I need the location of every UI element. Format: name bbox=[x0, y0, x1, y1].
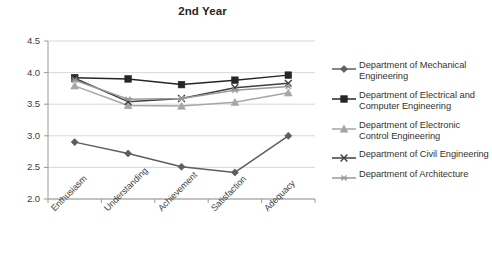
data-point-asterisk bbox=[340, 176, 347, 181]
data-point-triangle bbox=[71, 82, 79, 89]
data-point-asterisk bbox=[178, 96, 185, 101]
legend-item[interactable]: Department of Electronic Control Enginee… bbox=[332, 120, 492, 143]
legend-marker-square-icon bbox=[332, 91, 356, 103]
chart-legend: Department of Mechanical EngineeringDepa… bbox=[332, 60, 492, 189]
data-point-triangle bbox=[284, 89, 292, 96]
plot-svg bbox=[0, 0, 340, 259]
diamond-marker bbox=[340, 65, 347, 72]
square-marker bbox=[232, 77, 239, 84]
diamond-marker bbox=[125, 150, 132, 157]
legend-label: Department of Electrical and Computer En… bbox=[359, 90, 492, 113]
data-point-square bbox=[125, 76, 132, 83]
series-0 bbox=[71, 132, 292, 176]
legend-label: Department of Electronic Control Enginee… bbox=[359, 120, 492, 143]
legend-marker-asterisk-icon bbox=[332, 170, 356, 182]
data-point-diamond bbox=[340, 65, 347, 72]
legend-label: Department of Civil Engineering bbox=[359, 149, 489, 160]
y-axis-tick-label: 2.0 bbox=[14, 193, 40, 204]
legend-marker-diamond-icon bbox=[332, 61, 356, 73]
data-point-asterisk bbox=[285, 84, 292, 89]
square-marker bbox=[285, 72, 292, 79]
triangle-marker bbox=[284, 89, 292, 96]
y-axis-tick-label: 4.0 bbox=[14, 67, 40, 78]
y-axis-tick-label: 3.0 bbox=[14, 130, 40, 141]
diamond-marker bbox=[71, 139, 78, 146]
data-point-diamond bbox=[71, 139, 78, 146]
legend-item[interactable]: Department of Civil Engineering bbox=[332, 149, 492, 162]
legend-marker-x-icon bbox=[332, 150, 356, 162]
square-marker bbox=[178, 81, 185, 88]
data-point-square bbox=[285, 72, 292, 79]
legend-item[interactable]: Department of Mechanical Engineering bbox=[332, 60, 492, 83]
data-point-square bbox=[178, 81, 185, 88]
data-point-diamond bbox=[125, 150, 132, 157]
square-marker bbox=[125, 76, 132, 83]
chart-container: 2nd Year 2.02.53.03.54.04.5 EnthusiasmUn… bbox=[0, 0, 492, 259]
legend-label: Department of Architecture bbox=[359, 169, 468, 180]
data-point-diamond bbox=[178, 163, 185, 170]
legend-label: Department of Mechanical Engineering bbox=[359, 60, 492, 83]
y-axis-tick-label: 3.5 bbox=[14, 98, 40, 109]
legend-item[interactable]: Department of Electrical and Computer En… bbox=[332, 90, 492, 113]
data-point-square bbox=[232, 77, 239, 84]
legend-item[interactable]: Department of Architecture bbox=[332, 169, 492, 182]
plot-area: 2.02.53.03.54.04.5 EnthusiasmUnderstandi… bbox=[0, 0, 340, 259]
square-marker bbox=[341, 96, 348, 103]
diamond-marker bbox=[178, 163, 185, 170]
legend-marker-triangle-icon bbox=[332, 121, 356, 133]
data-point-square bbox=[341, 96, 348, 103]
y-axis-tick-label: 2.5 bbox=[14, 161, 40, 172]
y-axis-tick-label: 4.5 bbox=[14, 35, 40, 46]
triangle-marker bbox=[71, 82, 79, 89]
